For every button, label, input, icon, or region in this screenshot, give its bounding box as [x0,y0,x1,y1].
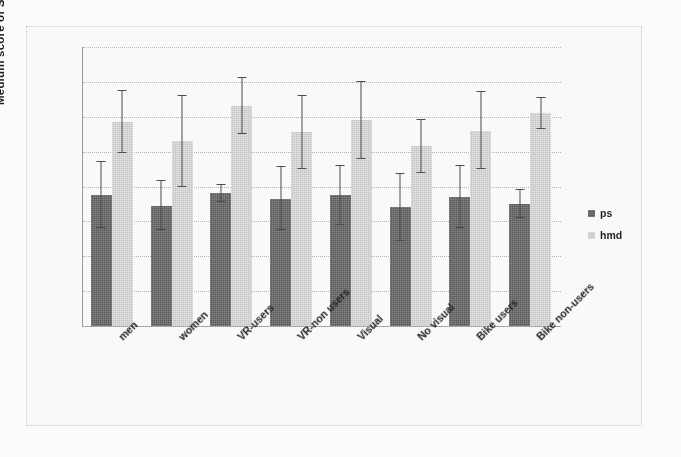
chart-legend: pshmd [588,202,648,246]
error-bar [101,162,102,228]
error-bar-cap-top [97,161,106,162]
error-bar [361,82,362,159]
error-bar-cap-bottom [336,224,345,225]
error-bar [540,98,541,129]
bar-hmd-no-visual[interactable] [411,146,432,326]
error-bar [421,120,422,172]
bar-hmd-bike-non-users[interactable] [530,113,551,326]
error-bar-cap-bottom [276,229,285,230]
error-bar-cap-top [297,95,306,96]
error-bar [280,167,281,230]
bar-slot [172,47,193,326]
error-bar [301,96,302,169]
error-bar-cap-bottom [396,240,405,241]
error-bar-cap-bottom [157,229,166,230]
bar-group [142,47,202,326]
error-bar-cap-top [237,77,246,78]
error-bar-cap-top [536,97,545,98]
bar-group [261,47,321,326]
error-bar-cap-top [476,91,485,92]
error-bar [122,91,123,154]
error-bar-cap-top [357,81,366,82]
error-bar-cap-bottom [216,201,225,202]
error-bar-cap-top [276,166,285,167]
error-bar-cap-bottom [515,217,524,218]
bar-slot [91,47,112,326]
legend-swatch-icon [588,232,595,239]
error-bar-cap-bottom [118,152,127,153]
bar-slot [291,47,312,326]
bar-group [500,47,560,326]
bar-group [381,47,441,326]
error-bar-cap-top [216,184,225,185]
error-bar-cap-bottom [536,128,545,129]
bar-slot [112,47,133,326]
error-bar-cap-top [157,180,166,181]
error-bar [220,185,221,202]
legend-swatch-icon [588,210,595,217]
bar-group [441,47,501,326]
bar-groups [82,47,560,326]
bar-slot [330,47,351,326]
y-axis-title: Medium score of SoP [0,0,6,105]
error-bar-cap-top [336,165,345,166]
error-bar-cap-top [515,189,524,190]
bar-ps-vr-users[interactable] [210,193,231,326]
legend-item-hmd[interactable]: hmd [588,224,648,246]
error-bar-cap-top [417,119,426,120]
legend-label: ps [600,207,612,219]
error-bar-cap-bottom [97,227,106,228]
bar-slot [390,47,411,326]
figure-root: Medium score of SoP 80706050403020100 me… [0,0,681,457]
legend-label: hmd [600,229,622,241]
error-bar [480,92,481,169]
error-bar-cap-top [178,95,187,96]
error-bar [182,96,183,187]
error-bar [400,174,401,240]
bar-slot [351,47,372,326]
bar-group [82,47,142,326]
legend-item-ps[interactable]: ps [588,202,648,224]
bar-slot [231,47,252,326]
bar-group [202,47,262,326]
bar-slot [470,47,491,326]
error-bar-cap-bottom [357,158,366,159]
error-bar-cap-top [118,90,127,91]
bar-slot [151,47,172,326]
error-bar-cap-bottom [455,227,464,228]
error-bar-cap-top [396,173,405,174]
error-bar-cap-bottom [237,133,246,134]
error-bar [340,166,341,225]
bar-hmd-vr-users[interactable] [231,106,252,326]
error-bar [241,78,242,134]
error-bar-cap-bottom [178,186,187,187]
bar-slot [449,47,470,326]
error-bar-cap-bottom [297,168,306,169]
bar-slot [210,47,231,326]
bar-group [321,47,381,326]
error-bar [519,190,520,218]
bar-slot [509,47,530,326]
error-bar [459,166,460,229]
error-bar [161,181,162,230]
bar-slot [411,47,432,326]
error-bar-cap-top [455,165,464,166]
error-bar-cap-bottom [417,172,426,173]
bar-slot [270,47,291,326]
plot-wrapper: Medium score of SoP 80706050403020100 me… [0,0,681,457]
error-bar-cap-bottom [476,168,485,169]
bar-slot [530,47,551,326]
